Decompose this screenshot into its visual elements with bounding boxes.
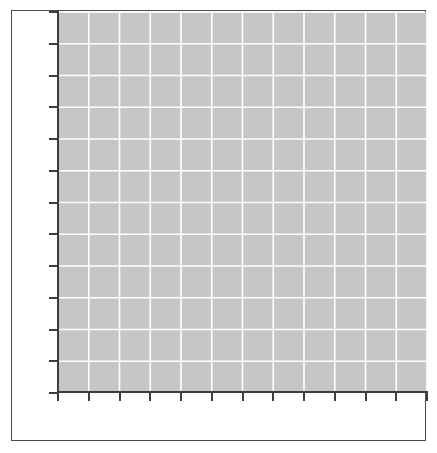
y-axis-tick (49, 170, 57, 172)
y-axis-tick (49, 202, 57, 204)
x-axis-tick (149, 391, 151, 401)
y-axis-tick (49, 360, 57, 362)
x-axis-tick (180, 391, 182, 401)
y-axis-tick (49, 329, 57, 331)
gridlines (58, 12, 427, 393)
x-axis-tick (242, 391, 244, 401)
x-axis-tick (57, 391, 59, 401)
x-axis-tick (303, 391, 305, 401)
x-axis-tick (426, 391, 428, 401)
plot-canvas[interactable] (58, 12, 427, 393)
x-axis-tick (395, 391, 397, 401)
y-axis-tick (49, 392, 57, 394)
y-axis-tick (49, 106, 57, 108)
y-axis-tick (49, 75, 57, 77)
y-axis-tick (49, 265, 57, 267)
y-axis-spine (57, 11, 59, 393)
x-axis-tick (365, 391, 367, 401)
figure-frame (11, 10, 426, 441)
y-axis-tick (49, 11, 57, 13)
x-axis-tick (211, 391, 213, 401)
y-axis-tick (49, 233, 57, 235)
x-axis-tick (334, 391, 336, 401)
x-axis-tick (272, 391, 274, 401)
y-axis-tick (49, 138, 57, 140)
x-axis-tick (119, 391, 121, 401)
x-axis-tick (88, 391, 90, 401)
y-axis-tick (49, 43, 57, 45)
y-axis-tick (49, 297, 57, 299)
